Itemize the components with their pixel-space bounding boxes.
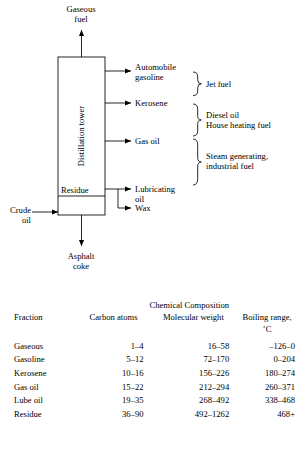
cell-molecular-weight: 212–294 xyxy=(158,379,240,393)
brace-jet-fuel xyxy=(194,72,202,96)
brace-diesel-house-heating xyxy=(194,104,202,136)
cell-fraction: Gaseous xyxy=(14,338,84,352)
wax-label: Wax xyxy=(135,203,151,213)
table-row: Kerosene 10–16 156–226 180–274 xyxy=(14,366,295,380)
gaseous-fuel-label: Gaseous fuel xyxy=(66,4,95,24)
cell-molecular-weight: 72–170 xyxy=(158,352,240,366)
table-row: Gaseous 1–4 16–58 –126–0 xyxy=(14,338,295,352)
table-header-row: Fraction Carbon atoms Molecular weight B… xyxy=(14,312,295,335)
residue-label: Residue xyxy=(61,185,89,195)
cell-carbon: 19–35 xyxy=(84,393,158,407)
steam-industrial-label: Steam generating, industrial fuel xyxy=(206,151,268,171)
jet-fuel-label: Jet fuel xyxy=(206,79,231,89)
group-header-spacer xyxy=(14,300,84,312)
cell-carbon: 10–16 xyxy=(84,366,158,380)
diesel-house-heating-label: Diesel oil House heating fuel xyxy=(206,110,271,130)
table-body: Gaseous 1–4 16–58 –126–0 Gasoline 5–12 7… xyxy=(14,338,295,420)
kerosene-label: Kerosene xyxy=(135,98,167,108)
header-carbon-atoms: Carbon atoms xyxy=(84,312,158,335)
gas-oil-label: Gas oil xyxy=(135,136,160,146)
chemical-composition-group-header: Chemical Composition xyxy=(84,300,295,312)
cell-boiling: –126–0 xyxy=(239,338,295,352)
header-boiling-range: Boiling range, ˚C xyxy=(239,312,295,335)
brace-steam-industrial xyxy=(194,139,202,185)
automobile-gasoline-label: Automobile gasoline xyxy=(135,62,176,82)
cell-fraction: Residue xyxy=(14,407,84,421)
table-row: Gas oil 15–22 212–294 260–371 xyxy=(14,379,295,393)
cell-carbon: 36–90 xyxy=(84,407,158,421)
distillation-tower-label: Distillation tower xyxy=(76,106,86,166)
table-group-header-row: Chemical Composition xyxy=(14,300,295,312)
cell-boiling: 180–274 xyxy=(239,366,295,380)
cell-fraction: Gasoline xyxy=(14,352,84,366)
cell-boiling: 468+ xyxy=(239,407,295,421)
crude-oil-distillation-figure: Distillation tower Gaseous fuel Crude oi… xyxy=(0,0,297,450)
cell-carbon: 5–12 xyxy=(84,352,158,366)
cell-fraction: Gas oil xyxy=(14,379,84,393)
cell-molecular-weight: 492–1262 xyxy=(158,407,240,421)
table-row: Gasoline 5–12 72–170 0–204 xyxy=(14,352,295,366)
cell-fraction: Kerosene xyxy=(14,366,84,380)
cell-boiling: 260–371 xyxy=(239,379,295,393)
cell-molecular-weight: 16–58 xyxy=(158,338,240,352)
lubricating-oil-label: Lubricating oil xyxy=(135,184,175,204)
cell-boiling: 0–204 xyxy=(239,352,295,366)
cell-molecular-weight: 268–492 xyxy=(158,393,240,407)
crude-oil-label: Crude oil xyxy=(0,205,31,225)
header-molecular-weight: Molecular weight xyxy=(158,312,240,335)
cell-fraction: Lube oil xyxy=(14,393,84,407)
asphalt-coke-label: Asphalt coke xyxy=(68,251,95,271)
table-row: Lube oil 19–35 268–492 338–468 xyxy=(14,393,295,407)
cell-molecular-weight: 156–226 xyxy=(158,366,240,380)
cell-boiling: 338–468 xyxy=(239,393,295,407)
fraction-properties-table: Chemical Composition Fraction Carbon ato… xyxy=(14,300,295,420)
table-row: Residue 36–90 492–1262 468+ xyxy=(14,407,295,421)
cell-carbon: 1–4 xyxy=(84,338,158,352)
header-fraction: Fraction xyxy=(14,312,84,335)
fraction-properties-table-wrap: Chemical Composition Fraction Carbon ato… xyxy=(0,300,297,450)
cell-carbon: 15–22 xyxy=(84,379,158,393)
distillation-diagram xyxy=(0,0,297,300)
